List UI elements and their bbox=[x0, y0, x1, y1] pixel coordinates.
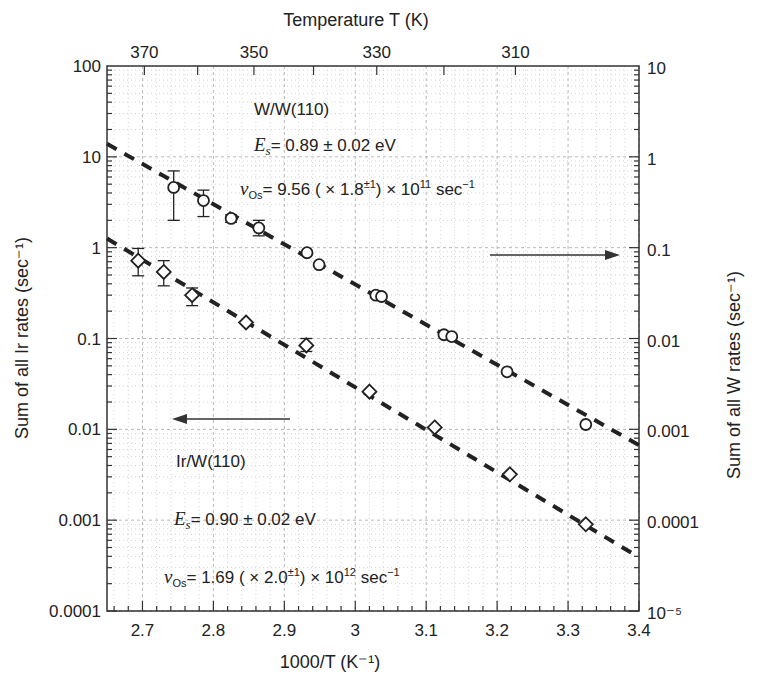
svg-text:10⁻⁵: 10⁻⁵ bbox=[647, 604, 682, 623]
w-nu-unit-exp: −1 bbox=[462, 178, 475, 190]
data-point-circle bbox=[314, 259, 325, 270]
ir-nu-exp: ±1 bbox=[288, 566, 300, 578]
data-point-circle bbox=[302, 247, 313, 258]
data-point-diamond bbox=[131, 254, 145, 268]
svg-text:0.0001: 0.0001 bbox=[49, 602, 101, 621]
x-axis-title: 1000/T (K⁻¹) bbox=[280, 652, 381, 672]
w-system-label: W/W(110) bbox=[254, 100, 329, 120]
data-point-circle bbox=[226, 213, 237, 224]
ir-nu-unit-exp: −1 bbox=[387, 566, 400, 578]
es-symbol: E bbox=[254, 134, 266, 155]
ir-nu-pre: = 1.69 ( × 2.0 bbox=[187, 568, 288, 587]
svg-text:0.1: 0.1 bbox=[647, 241, 671, 260]
svg-text:3.4: 3.4 bbox=[627, 621, 651, 640]
top-axis-title: Temperature T (K) bbox=[283, 10, 428, 30]
data-points bbox=[131, 171, 593, 531]
w-nu-exp: ±1 bbox=[364, 178, 376, 190]
w-nu-post: ) × 10 bbox=[376, 180, 420, 199]
ir-activation-energy: Es= 0.90 ± 0.02 eV bbox=[174, 508, 316, 533]
data-point-diamond bbox=[157, 265, 171, 279]
data-point-circle bbox=[168, 182, 179, 193]
data-point-circle bbox=[580, 419, 591, 430]
data-point-circle bbox=[253, 222, 264, 233]
svg-text:310: 310 bbox=[501, 43, 529, 62]
data-point-circle bbox=[446, 331, 457, 342]
svg-text:330: 330 bbox=[363, 43, 391, 62]
svg-text:350: 350 bbox=[240, 43, 268, 62]
arrow-right-icon bbox=[490, 250, 620, 260]
svg-text:100: 100 bbox=[73, 57, 101, 76]
svg-text:0.0001: 0.0001 bbox=[647, 513, 699, 532]
data-point-diamond bbox=[428, 420, 442, 434]
y-axis-left-title: Sum of all Ir rates (sec⁻¹) bbox=[12, 237, 32, 439]
svg-text:0.001: 0.001 bbox=[647, 422, 690, 441]
svg-text:3: 3 bbox=[351, 621, 360, 640]
w-activation-energy: Es= 0.89 ± 0.02 eV bbox=[254, 134, 396, 159]
svg-text:3.3: 3.3 bbox=[556, 621, 580, 640]
w-prefactor: νOs= 9.56 ( × 1.8±1) × 1011 sec−1 bbox=[240, 178, 475, 201]
svg-text:3.2: 3.2 bbox=[485, 621, 509, 640]
svg-text:10: 10 bbox=[82, 148, 101, 167]
nu-subscript: Os bbox=[248, 189, 262, 201]
svg-text:0.01: 0.01 bbox=[647, 332, 680, 351]
w-nu-unit: sec bbox=[431, 180, 462, 199]
w-nu-pre: = 9.56 ( × 1.8 bbox=[263, 180, 364, 199]
svg-text:3.1: 3.1 bbox=[414, 621, 438, 640]
data-point-circle bbox=[198, 195, 209, 206]
svg-text:0.001: 0.001 bbox=[58, 511, 101, 530]
y-axis-right-title: Sum of all W rates (sec⁻¹) bbox=[724, 271, 744, 479]
ir-nu-unit: sec bbox=[356, 568, 387, 587]
data-point-diamond bbox=[299, 338, 313, 352]
fit-lines bbox=[107, 144, 639, 557]
nu-subscript: Os bbox=[172, 577, 186, 589]
axis-labels: 3703503303102.72.82.933.13.23.33.4100101… bbox=[49, 43, 699, 640]
w-nu-pow: 11 bbox=[420, 178, 431, 190]
ir-nu-post: ) × 10 bbox=[300, 568, 344, 587]
arrow-left-icon bbox=[172, 414, 290, 424]
ir-prefactor: νOs= 1.69 ( × 2.0±1) × 1012 sec−1 bbox=[164, 566, 400, 589]
svg-text:1: 1 bbox=[92, 239, 101, 258]
ir-nu-pow: 12 bbox=[344, 566, 356, 578]
svg-text:1: 1 bbox=[647, 150, 656, 169]
svg-text:10: 10 bbox=[647, 59, 666, 78]
svg-text:0.1: 0.1 bbox=[77, 330, 101, 349]
ir-es-value: = 0.90 ± 0.02 eV bbox=[191, 510, 316, 529]
w-es-value: = 0.89 ± 0.02 eV bbox=[271, 136, 396, 155]
svg-text:370: 370 bbox=[130, 43, 158, 62]
es-symbol: E bbox=[174, 508, 186, 529]
svg-text:0.01: 0.01 bbox=[68, 420, 101, 439]
svg-text:2.9: 2.9 bbox=[273, 621, 297, 640]
data-point-circle bbox=[376, 291, 387, 302]
data-point-circle bbox=[502, 366, 513, 377]
svg-text:2.8: 2.8 bbox=[202, 621, 226, 640]
svg-text:2.7: 2.7 bbox=[131, 621, 155, 640]
ir-system-label: Ir/W(110) bbox=[176, 452, 246, 472]
data-point-diamond bbox=[239, 316, 253, 330]
